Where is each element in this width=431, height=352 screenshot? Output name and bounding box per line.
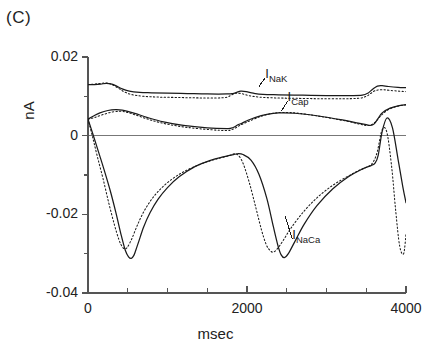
curve-label-inak: INaK (265, 66, 287, 84)
trace-i-nak-solid (88, 83, 406, 95)
plot-area (0, 0, 431, 352)
trace-i-nak-dotted (88, 83, 406, 99)
trace-i-naca-dotted (88, 119, 406, 254)
figure-panel-c: (C) nA msec 0.02 0 -0.02 -0.04 0 2000 40… (0, 0, 431, 352)
inaca-subscript: NaCa (296, 234, 320, 245)
inak-subscript: NaK (269, 72, 287, 83)
icap-subscript: Cap (291, 96, 308, 107)
curve-label-inaca: INaCa (292, 227, 320, 245)
trace-i-cap-solid (88, 105, 406, 129)
trace-i-naca-solid (88, 118, 406, 259)
curve-label-icap: ICap (288, 89, 309, 107)
trace-i-cap-dotted (88, 105, 406, 131)
